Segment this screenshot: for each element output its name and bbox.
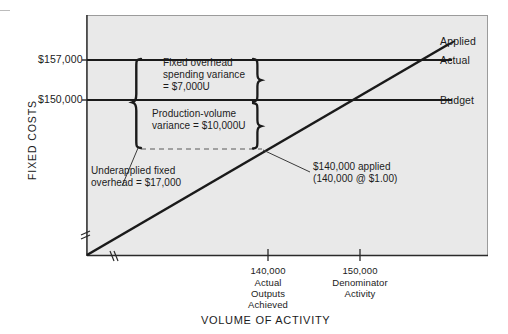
y-axis-label-150000: $150,000: [38, 93, 83, 105]
x-axis-title: VOLUME OF ACTIVITY: [201, 314, 330, 327]
applied-point-line1: $140,000 applied: [313, 161, 391, 173]
applied-point-line2: (140,000 @ $1.00): [313, 173, 397, 185]
spending-variance-line1: Fixed overhead: [163, 57, 233, 69]
series-label-applied: Applied: [440, 35, 476, 47]
fixed-overhead-variance-chart: $157,000 $150,000 FIXED COSTS Applied Ac…: [0, 0, 508, 334]
x-tick-label-150000: 150,000: [310, 265, 410, 276]
x-tick-sublabel-150000: Denominator Activity: [310, 277, 410, 299]
underapplied-overhead-line1: Underapplied fixed: [91, 165, 175, 177]
y-axis-title: FIXED COSTS: [26, 100, 38, 180]
production-volume-variance-line1: Production-volume: [152, 108, 236, 120]
y-axis-label-157000: $157,000: [38, 53, 83, 65]
series-label-budget: Budget: [440, 94, 474, 106]
x-tick-label-140000: 140,000: [228, 265, 308, 276]
production-volume-variance-line2: variance = $10,000U: [152, 120, 246, 132]
spending-variance-line2: spending variance: [163, 69, 245, 81]
underapplied-overhead-line2: overhead = $17,000: [91, 177, 181, 189]
spending-variance-line3: = $7,000U: [163, 81, 210, 93]
x-tick-sublabel-140000: Actual Outputs Achieved: [228, 277, 308, 311]
series-label-actual: Actual: [440, 54, 470, 66]
